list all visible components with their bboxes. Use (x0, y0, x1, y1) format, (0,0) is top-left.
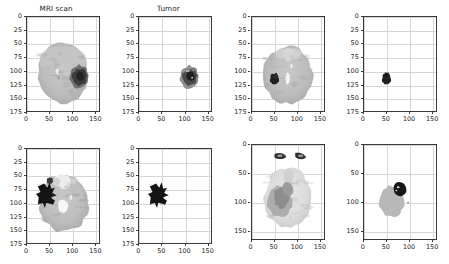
y-tick-label: 100 (2, 199, 22, 207)
y-tick-label: 150 (227, 94, 247, 102)
y-tick-label: 125 (114, 213, 134, 221)
y-tick-label: 50 (2, 39, 22, 47)
plot-area (26, 148, 100, 244)
y-tick-mark (24, 148, 26, 149)
y-tick-mark (24, 85, 26, 86)
x-tick-mark (49, 244, 50, 246)
x-tick-label: 100 (66, 247, 78, 255)
mri-scan-panel-2: 0255075100125150175050100150 (225, 0, 337, 132)
plot-area (251, 144, 325, 240)
y-tick-mark (361, 71, 363, 72)
x-tick-label: 150 (89, 247, 101, 255)
x-tick-label: 50 (270, 243, 278, 251)
brain-mri-image (252, 17, 324, 111)
y-tick-label: 0 (227, 140, 247, 148)
x-tick-mark (363, 240, 364, 242)
y-tick-mark (136, 57, 138, 58)
y-tick-mark (361, 30, 363, 31)
x-tick-label: 100 (178, 115, 190, 123)
brain-mri-image (252, 145, 324, 239)
x-tick-mark (274, 240, 275, 242)
y-tick-label: 50 (227, 39, 247, 47)
y-tick-mark (136, 230, 138, 231)
y-tick-mark (24, 203, 26, 204)
y-tick-mark (361, 57, 363, 58)
x-tick-label: 150 (426, 115, 438, 123)
y-tick-label: 0 (2, 144, 22, 152)
x-tick-mark (320, 112, 321, 114)
y-tick-mark (248, 85, 250, 86)
y-tick-label: 75 (227, 53, 247, 61)
x-tick-mark (185, 244, 186, 246)
y-tick-mark (24, 189, 26, 190)
x-tick-label: 0 (361, 243, 365, 251)
plot-area (363, 144, 437, 240)
x-tick-label: 0 (24, 115, 28, 123)
x-tick-label: 150 (202, 115, 214, 123)
x-tick-mark (49, 112, 50, 114)
y-tick-mark (136, 71, 138, 72)
x-tick-mark (251, 240, 252, 242)
y-tick-mark (136, 43, 138, 44)
y-tick-label: 50 (114, 171, 134, 179)
y-tick-mark (248, 144, 250, 145)
y-tick-mark (248, 173, 250, 174)
x-tick-mark (297, 240, 298, 242)
x-tick-label: 50 (45, 247, 53, 255)
x-tick-label: 100 (291, 115, 303, 123)
tumor-mask-panel-7: 050100150050100150 (337, 132, 449, 264)
tumor-mask-image (364, 145, 436, 239)
y-tick-label: 0 (339, 12, 359, 20)
y-tick-label: 175 (2, 240, 22, 248)
y-tick-label: 75 (114, 53, 134, 61)
x-tick-mark (185, 112, 186, 114)
x-tick-label: 150 (426, 243, 438, 251)
tumor-mask-panel-3: 0255075100125150175050100150 (337, 0, 449, 132)
y-tick-mark (136, 16, 138, 17)
y-tick-label: 0 (339, 140, 359, 148)
y-tick-label: 50 (114, 39, 134, 47)
y-tick-mark (136, 162, 138, 163)
x-tick-mark (432, 240, 433, 242)
y-tick-mark (248, 231, 250, 232)
x-tick-mark (409, 112, 410, 114)
y-tick-mark (136, 148, 138, 149)
x-tick-label: 150 (314, 115, 326, 123)
y-tick-label: 125 (114, 81, 134, 89)
y-tick-label: 150 (227, 227, 247, 235)
y-tick-label: 75 (2, 53, 22, 61)
y-tick-label: 75 (2, 185, 22, 193)
y-tick-mark (24, 230, 26, 231)
y-tick-label: 0 (227, 12, 247, 20)
x-tick-label: 0 (24, 247, 28, 255)
mri-scan-panel-0: MRI scan0255075100125150175050100150 (0, 0, 112, 132)
y-tick-mark (248, 57, 250, 58)
y-tick-label: 175 (114, 108, 134, 116)
x-tick-mark (208, 112, 209, 114)
x-tick-mark (208, 244, 209, 246)
y-tick-label: 25 (339, 26, 359, 34)
y-tick-mark (361, 202, 363, 203)
y-tick-label: 100 (227, 67, 247, 75)
x-tick-mark (72, 244, 73, 246)
y-tick-mark (136, 175, 138, 176)
y-tick-mark (24, 175, 26, 176)
x-tick-mark (251, 112, 252, 114)
y-tick-label: 125 (339, 81, 359, 89)
x-tick-mark (386, 240, 387, 242)
y-tick-mark (24, 71, 26, 72)
y-tick-label: 175 (114, 240, 134, 248)
x-tick-label: 100 (178, 247, 190, 255)
y-tick-label: 150 (339, 227, 359, 235)
x-tick-mark (409, 240, 410, 242)
y-tick-label: 175 (2, 108, 22, 116)
y-tick-mark (24, 162, 26, 163)
y-tick-label: 25 (2, 26, 22, 34)
y-tick-label: 125 (227, 81, 247, 89)
x-tick-label: 50 (157, 247, 165, 255)
x-tick-mark (363, 112, 364, 114)
y-tick-label: 100 (2, 67, 22, 75)
x-tick-label: 0 (136, 115, 140, 123)
x-tick-label: 100 (66, 115, 78, 123)
y-tick-mark (136, 85, 138, 86)
